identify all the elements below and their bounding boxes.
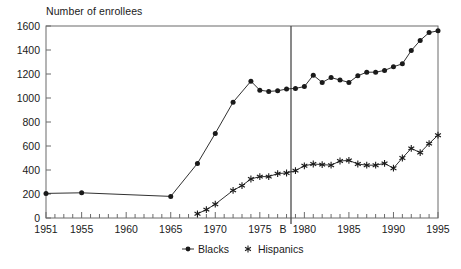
data-point: [293, 86, 298, 91]
data-point: [373, 70, 378, 75]
data-point: [355, 73, 360, 78]
legend-label: Hispanics: [258, 244, 304, 255]
x-tick-label: 1990: [382, 223, 405, 235]
data-point: [79, 190, 84, 195]
chart-container: Number of enrollees 02004006008001000120…: [0, 0, 461, 269]
data-point: [311, 73, 316, 78]
data-point: [275, 88, 280, 93]
y-tick-label: 600: [6, 140, 40, 152]
x-tick-label: 1975: [248, 223, 271, 235]
y-tick-label: 1000: [6, 92, 40, 104]
data-point: [400, 61, 405, 66]
series-hispanics: [195, 132, 441, 217]
x-tick-label: 1970: [204, 223, 227, 235]
series-line-blacks: [46, 31, 438, 197]
data-point: [391, 64, 396, 69]
x-tick-label: 1985: [337, 223, 360, 235]
legend-marker: [186, 247, 191, 252]
legend-entry-blacks: Blacks: [182, 244, 229, 255]
data-point: [382, 68, 387, 73]
chart-legend: BlacksHispanics: [182, 244, 303, 255]
x-tick-label: 1965: [159, 223, 182, 235]
x-tick-label: 1955: [70, 223, 93, 235]
data-point: [436, 28, 441, 33]
series-line-hispanics: [197, 135, 438, 214]
data-point: [346, 80, 351, 85]
y-tick-label: 1600: [6, 20, 40, 32]
data-point: [302, 84, 307, 89]
x-tick-label: 1980: [293, 223, 316, 235]
data-point: [427, 30, 432, 35]
data-point: [195, 161, 200, 166]
data-point: [409, 48, 414, 53]
data-point: [364, 70, 369, 75]
data-point: [44, 191, 49, 196]
data-point: [266, 89, 271, 94]
legend-label: Blacks: [198, 244, 229, 255]
data-point: [231, 100, 236, 105]
series-layer: [44, 28, 441, 217]
y-tick-label: 800: [6, 116, 40, 128]
filled-circle-icon: [182, 244, 194, 254]
chart-title: Number of enrollees: [46, 5, 142, 17]
data-point: [338, 78, 343, 83]
x-axis-b-marker-label: B: [279, 223, 286, 235]
legend-entry-hispanics: Hispanics: [242, 244, 304, 255]
star-icon: [242, 244, 254, 254]
x-tick-label: 1951: [34, 223, 57, 235]
y-tick-label: 1200: [6, 68, 40, 80]
series-blacks: [44, 28, 441, 199]
data-point: [418, 38, 423, 43]
x-tick-label: 1960: [114, 223, 137, 235]
plot-frame: [46, 26, 438, 218]
data-point: [248, 79, 253, 84]
data-point: [257, 88, 262, 93]
y-tick-label: 1400: [6, 44, 40, 56]
axes-layer: [46, 26, 438, 218]
y-tick-label: 400: [6, 164, 40, 176]
data-point: [284, 87, 289, 92]
data-point: [320, 80, 325, 85]
data-point: [213, 131, 218, 136]
data-point: [168, 194, 173, 199]
x-tick-label: 1995: [426, 223, 449, 235]
y-tick-label: 200: [6, 188, 40, 200]
data-point: [329, 75, 334, 80]
